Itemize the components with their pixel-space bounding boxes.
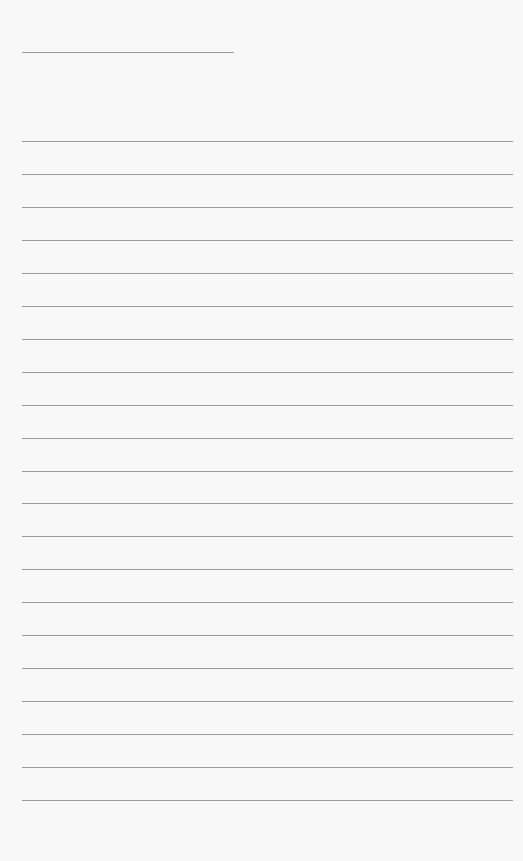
ruled-line	[22, 701, 513, 702]
ruled-line	[22, 503, 513, 504]
ruled-line	[22, 240, 513, 241]
ruled-line	[22, 306, 513, 307]
ruled-line	[22, 635, 513, 636]
ruled-line	[22, 602, 513, 603]
ruled-line	[22, 767, 513, 768]
ruled-line	[22, 339, 513, 340]
ruled-line	[22, 471, 513, 472]
ruled-line	[22, 372, 513, 373]
ruled-line	[22, 800, 513, 801]
ruled-line	[22, 273, 513, 274]
title-line	[22, 52, 234, 53]
ruled-line	[22, 536, 513, 537]
ruled-line	[22, 668, 513, 669]
ruled-line	[22, 141, 513, 142]
ruled-line	[22, 438, 513, 439]
ruled-line	[22, 174, 513, 175]
ruled-line	[22, 207, 513, 208]
ruled-line	[22, 734, 513, 735]
lined-paper-page	[0, 0, 523, 861]
ruled-line	[22, 569, 513, 570]
ruled-line	[22, 405, 513, 406]
